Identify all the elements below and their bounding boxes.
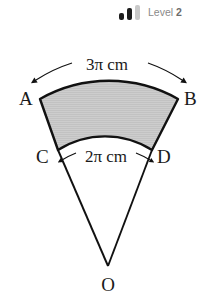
radius-line-left xyxy=(58,150,108,266)
annular-sector-region xyxy=(40,81,178,150)
diagram-page: Level 2 xyxy=(0,0,215,306)
figure-svg: 3π cm 2π cm A B C D O xyxy=(0,0,215,306)
dimension-arc-outer-left xyxy=(36,63,72,80)
geometry-figure: 3π cm 2π cm A B C D O xyxy=(0,0,215,306)
inner-arc-dimension-label: 2π cm xyxy=(85,147,127,166)
outer-arc-dimension-label: 3π cm xyxy=(86,55,128,74)
point-label-o: O xyxy=(101,274,115,295)
radius-line-right xyxy=(108,150,152,266)
point-label-c: C xyxy=(36,146,49,167)
point-label-d: D xyxy=(157,146,171,167)
dimension-arc-outer-right xyxy=(148,63,182,80)
dimension-arc-inner-left xyxy=(62,153,76,160)
point-label-b: B xyxy=(184,88,197,109)
point-label-a: A xyxy=(19,88,33,109)
dimension-arc-inner-right xyxy=(136,153,150,160)
